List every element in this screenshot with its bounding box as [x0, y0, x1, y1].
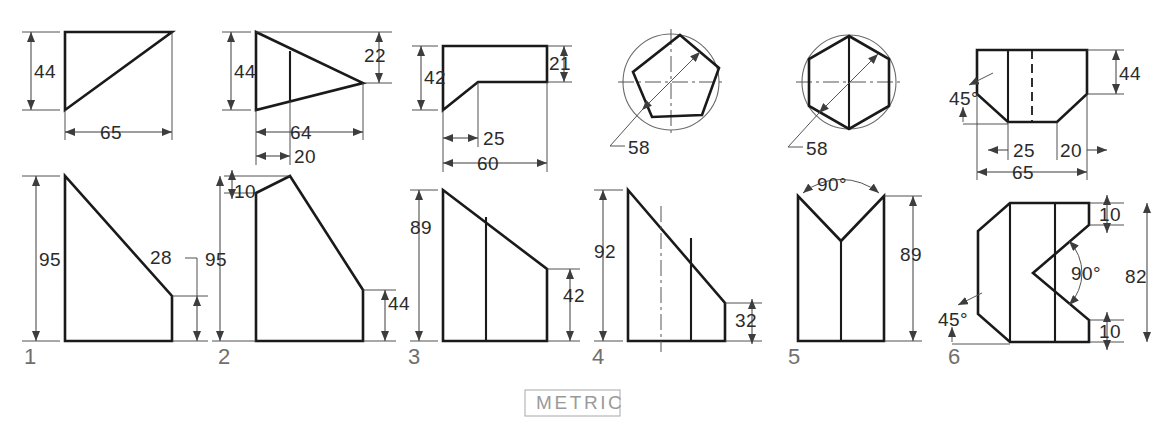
dim-label: 28 [150, 247, 172, 268]
dim-label: 21 [549, 53, 571, 74]
figure-number: 6 [948, 344, 960, 369]
dim-label: 65 [100, 122, 122, 143]
figure-number: 4 [592, 344, 604, 369]
dim-label: 90° [817, 174, 847, 195]
dim-label: 42 [563, 285, 585, 306]
drawing-sheet: 44 65 95 28 1 [0, 0, 1167, 442]
figure-number: 5 [788, 344, 800, 369]
dim-label: 44 [34, 61, 56, 82]
dim-label: 44 [388, 293, 410, 314]
dim-label: 25 [1013, 140, 1035, 161]
dim-label: 82 [1125, 266, 1147, 287]
dim-label: 89 [900, 244, 922, 265]
dim-label: 20 [1060, 140, 1082, 161]
dim-label: 10 [234, 181, 256, 202]
sheet-background [0, 0, 1167, 442]
dim-label: 58 [806, 138, 828, 159]
dim-label: 42 [424, 67, 446, 88]
dim-label: 32 [735, 310, 757, 331]
metric-note: METRIC [525, 390, 624, 416]
dim-label: 58 [628, 137, 650, 158]
metric-label: METRIC [536, 392, 624, 413]
dim-label: 95 [39, 249, 61, 270]
dim-label: 10 [1099, 321, 1121, 342]
dim-label: 89 [410, 217, 432, 238]
dim-label: 60 [477, 153, 499, 174]
dim-label: 44 [1119, 63, 1141, 84]
dim-label: 20 [294, 146, 316, 167]
dim-label: 90° [1071, 263, 1101, 284]
dim-label: 22 [364, 45, 386, 66]
dim-label: 10 [1099, 204, 1121, 225]
dim-label: 92 [594, 241, 616, 262]
figure-number: 2 [218, 344, 230, 369]
dim-label: 44 [234, 61, 256, 82]
dim-label: 25 [483, 128, 505, 149]
dim-label: 65 [1012, 162, 1034, 183]
dim-label: 45° [938, 309, 968, 330]
figure-number: 1 [24, 344, 36, 369]
figure-number: 3 [408, 344, 420, 369]
dim-label: 64 [290, 122, 312, 143]
dim-label: 45° [949, 88, 979, 109]
dim-label: 95 [205, 249, 227, 270]
